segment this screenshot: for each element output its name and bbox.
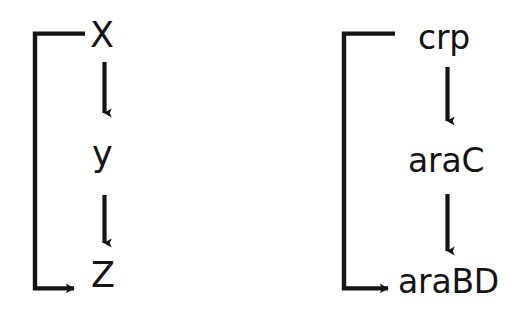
node-label-arabd: araBD [398,265,499,298]
diagram-feed-forward-loop-abstract: X y Z [0,0,264,314]
figure-canvas: X y Z [0,0,528,314]
node-label-y: y [92,137,113,172]
node-label-crp: crp [418,21,470,54]
edge-x-to-z-bypass [35,34,85,289]
node-label-z: Z [91,258,115,293]
diagram-feed-forward-loop-ara-system: crp araC araBD [264,0,528,314]
edge-crp-to-arabd-bypass [344,34,395,289]
node-label-x: X [90,18,114,53]
node-label-arac: araC [408,144,484,177]
